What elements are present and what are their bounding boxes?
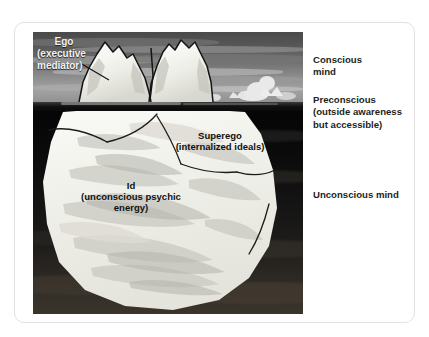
label-superego-line1: Superego	[155, 130, 285, 141]
label-ego-line3: mediator)	[37, 60, 137, 72]
label-ego: Ego (executive mediator)	[37, 36, 137, 71]
unconscious-line1: Unconscious mind	[313, 189, 421, 201]
label-ego-line1: Ego	[37, 36, 91, 48]
label-id-line1: Id	[61, 180, 201, 191]
label-superego-line2: (internalized ideals)	[155, 141, 285, 152]
side-label-preconscious: Preconscious (outside awareness but acce…	[313, 94, 421, 131]
side-label-conscious: Conscious mind	[313, 54, 417, 79]
preconscious-line2: (outside awareness	[313, 106, 421, 118]
ego-leader-line	[33, 32, 303, 314]
label-id-line3: energy)	[61, 202, 201, 213]
iceberg-illustration: Ego (executive mediator) Superego (inter…	[33, 32, 303, 314]
label-id-line2: (unconscious psychic	[61, 191, 201, 202]
side-label-unconscious: Unconscious mind	[313, 189, 421, 201]
label-superego: Superego (internalized ideals)	[155, 130, 285, 152]
label-ego-line2: (executive	[37, 48, 137, 60]
label-id: Id (unconscious psychic energy)	[61, 180, 201, 214]
conscious-line1: Conscious	[313, 54, 417, 66]
preconscious-line1: Preconscious	[313, 94, 421, 106]
preconscious-line3: but accessible)	[313, 119, 421, 131]
page-root: Ego (executive mediator) Superego (inter…	[0, 0, 429, 337]
figure-card: Ego (executive mediator) Superego (inter…	[14, 22, 415, 323]
conscious-line2: mind	[313, 66, 417, 78]
